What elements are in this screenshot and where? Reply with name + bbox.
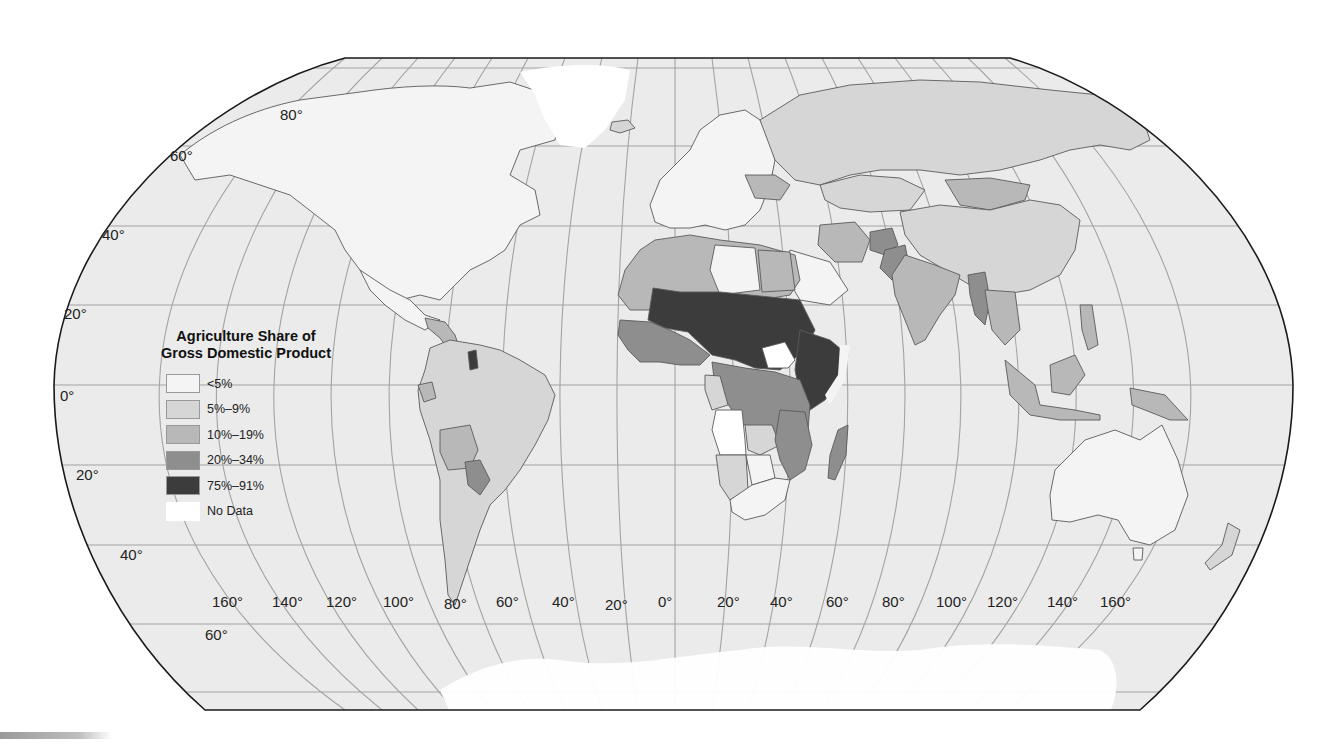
legend-label: 5%–9% bbox=[207, 402, 250, 416]
lon-label: 140° bbox=[1047, 593, 1078, 610]
lon-label: 100° bbox=[383, 593, 414, 610]
lat-label: 40° bbox=[102, 226, 125, 243]
legend-swatch bbox=[166, 476, 200, 495]
lon-label: 40° bbox=[552, 593, 575, 610]
legend-label: No Data bbox=[207, 504, 253, 518]
decorative-fade-bar bbox=[0, 732, 112, 739]
lat-label: 20° bbox=[64, 305, 87, 322]
legend-item: <5% bbox=[166, 371, 386, 397]
lon-label: 60° bbox=[826, 593, 849, 610]
legend-swatch bbox=[166, 502, 200, 521]
legend-title-line: Gross Domestic Product bbox=[146, 345, 346, 362]
legend-item: No Data bbox=[166, 499, 386, 525]
legend-item: 75%–91% bbox=[166, 473, 386, 499]
lon-label: 160° bbox=[1100, 593, 1131, 610]
lon-label: 40° bbox=[770, 593, 793, 610]
lon-label: 20° bbox=[717, 593, 740, 610]
legend-swatch bbox=[166, 374, 200, 393]
lon-label: 140° bbox=[272, 593, 303, 610]
legend-label: 20%–34% bbox=[207, 453, 264, 467]
legend-title: Agriculture Share of Gross Domestic Prod… bbox=[146, 328, 346, 362]
map-legend: Agriculture Share of Gross Domestic Prod… bbox=[146, 328, 386, 524]
lat-label: 20° bbox=[76, 466, 99, 483]
lon-label: 20° bbox=[605, 596, 628, 613]
legend-item: 10%–19% bbox=[166, 422, 386, 448]
lon-label: 100° bbox=[936, 593, 967, 610]
region-guyana bbox=[468, 350, 478, 370]
legend-title-line: Agriculture Share of bbox=[146, 328, 346, 345]
legend-item: 20%–34% bbox=[166, 448, 386, 474]
legend-swatch bbox=[166, 451, 200, 470]
lon-label: 120° bbox=[987, 593, 1018, 610]
region-tasmania bbox=[1133, 548, 1143, 560]
lon-label: 80° bbox=[882, 593, 905, 610]
legend-label: <5% bbox=[207, 377, 232, 391]
lat-label: 60° bbox=[170, 147, 193, 164]
lat-label: 0° bbox=[60, 387, 74, 404]
lat-label: 80° bbox=[280, 106, 303, 123]
lon-label: 0° bbox=[658, 593, 672, 610]
lat-label: 60° bbox=[205, 626, 228, 643]
legend-item: 5%–9% bbox=[166, 397, 386, 423]
legend-swatch bbox=[166, 425, 200, 444]
legend-label: 75%–91% bbox=[207, 479, 264, 493]
lon-label: 120° bbox=[326, 593, 357, 610]
lon-label: 160° bbox=[212, 593, 243, 610]
region-libya bbox=[710, 245, 760, 295]
region-egypt bbox=[758, 250, 795, 292]
lon-label: 80° bbox=[444, 595, 467, 612]
legend-label: 10%–19% bbox=[207, 428, 264, 442]
lon-label: 60° bbox=[496, 593, 519, 610]
legend-swatch bbox=[166, 400, 200, 419]
lat-label: 40° bbox=[120, 546, 143, 563]
